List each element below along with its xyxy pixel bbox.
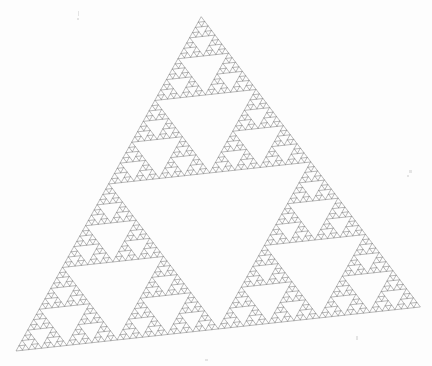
sierpinski-outline-path <box>16 17 420 351</box>
sierpinski-triangle-svg <box>0 0 432 366</box>
fractal-figure <box>0 0 432 366</box>
fractal-paths-group <box>16 17 420 351</box>
